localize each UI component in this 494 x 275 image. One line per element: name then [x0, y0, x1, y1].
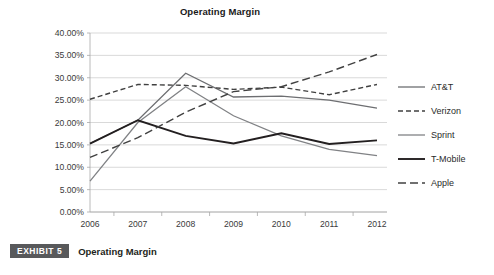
- x-tick-label-2009: 2009: [224, 219, 243, 229]
- x-tick-label-2006: 2006: [80, 219, 99, 229]
- exhibit-caption-text: Operating Margin: [78, 246, 157, 257]
- x-tick-label-2011: 2011: [320, 219, 339, 229]
- operating-margin-line-chart: 0.00%5.00%10.00%15.00%20.00%25.00%30.00%…: [0, 0, 494, 240]
- x-tick-label-2008: 2008: [176, 219, 195, 229]
- legend-label-at-t: AT&T: [431, 82, 454, 92]
- axes-group: [87, 33, 387, 216]
- legend-label-apple: Apple: [431, 178, 454, 188]
- y-axis-tick-labels: 0.00%5.00%10.00%15.00%20.00%25.00%30.00%…: [55, 28, 85, 217]
- y-tick-label-35: 35.00%: [55, 50, 85, 60]
- series-line-at-t: [90, 73, 377, 143]
- y-tick-label-30: 30.00%: [55, 73, 85, 83]
- legend-label-t-mobile: T-Mobile: [431, 154, 466, 164]
- exhibit-number-badge: EXHIBIT 5: [10, 244, 69, 259]
- y-tick-label-40: 40.00%: [55, 28, 85, 38]
- series-line-t-mobile: [90, 120, 377, 144]
- chart-legend: AT&TVerizonSprintT-MobileApple: [398, 82, 466, 188]
- y-tick-label-20: 20.00%: [55, 118, 85, 128]
- x-axis-tick-labels: 2006200720082009201020112012: [80, 219, 386, 229]
- x-tick-label-2010: 2010: [272, 219, 291, 229]
- y-tick-label-15: 15.00%: [55, 140, 85, 150]
- y-tick-label-5: 5.00%: [60, 185, 85, 195]
- series-line-apple: [90, 54, 377, 157]
- figure-container: Operating Margin 0.00%5.00%10.00%15.00%2…: [0, 0, 494, 240]
- exhibit-caption: EXHIBIT 5 Operating Margin: [10, 243, 157, 259]
- x-tick-label-2007: 2007: [128, 219, 147, 229]
- y-tick-label-0: 0.00%: [60, 207, 85, 217]
- legend-label-sprint: Sprint: [431, 130, 455, 140]
- data-series-group: [90, 54, 377, 181]
- y-tick-label-25: 25.00%: [55, 95, 85, 105]
- x-tick-label-2012: 2012: [367, 219, 386, 229]
- legend-label-verizon: Verizon: [431, 106, 461, 116]
- y-tick-label-10: 10.00%: [55, 162, 85, 172]
